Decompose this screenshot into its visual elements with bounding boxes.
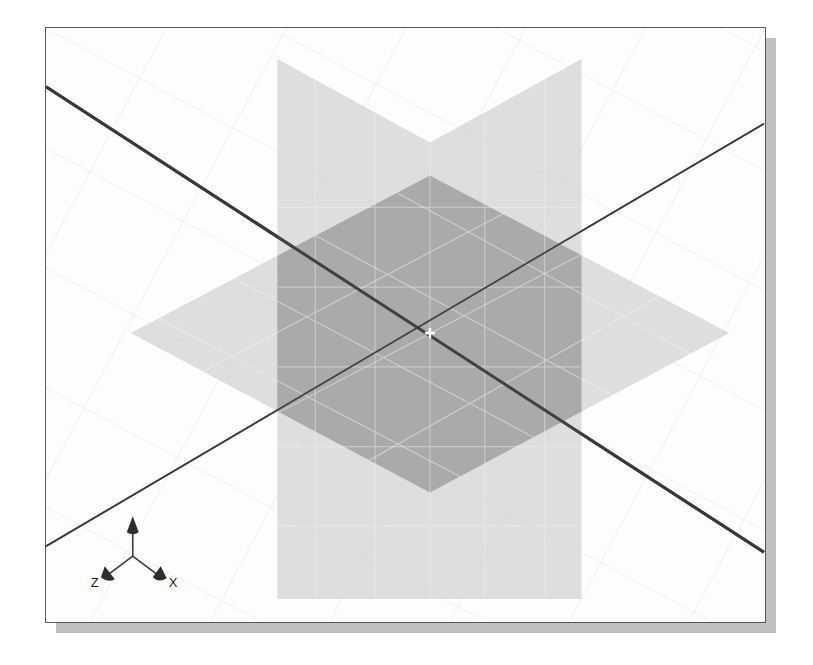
triad-label-z: Z (91, 575, 99, 590)
triad-label-x: X (169, 575, 178, 590)
viewport-3d[interactable]: Z X (45, 27, 766, 623)
viewport-canvas[interactable]: Z X (46, 28, 765, 622)
origin-point (428, 331, 432, 335)
application-window: Z X (0, 0, 813, 665)
